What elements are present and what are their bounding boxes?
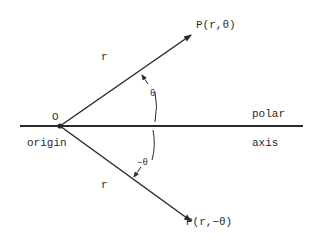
ray-upper: [60, 35, 191, 126]
polar-diagram: P(r,θ) P(r,−θ) r r θ −θ O origin polar a…: [0, 0, 321, 246]
ray-lower: [60, 126, 191, 221]
origin-label: origin: [27, 137, 67, 149]
axis-label-bottom: axis: [252, 137, 278, 149]
angle-arrow-upper: [142, 75, 148, 84]
origin-letter: O: [52, 111, 59, 123]
radius-lower-label: r: [101, 179, 108, 191]
angle-upper-label: θ: [150, 89, 155, 99]
radius-upper-label: r: [101, 51, 108, 63]
axis-label-top: polar: [252, 108, 285, 120]
angle-arc-lower: [152, 130, 154, 160]
angle-arrow-lower: [134, 167, 141, 177]
angle-lower-label: −θ: [137, 158, 148, 168]
point-lower-label: P(r,−θ): [186, 216, 232, 228]
point-upper-label: P(r,θ): [196, 19, 236, 31]
